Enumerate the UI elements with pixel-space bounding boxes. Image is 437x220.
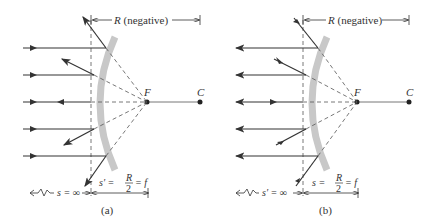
svg-text:2: 2: [126, 183, 131, 194]
svg-text:2: 2: [336, 183, 341, 194]
radius-label: R (negative): [113, 14, 168, 27]
convex-mirror: [100, 37, 115, 170]
center-point-dot: [407, 100, 412, 105]
panel-b: F C R (negative) s′ = ∞: [236, 14, 414, 217]
image-distance-label: s′ =: [99, 177, 114, 188]
center-point-dot: [198, 100, 203, 105]
svg-text:= f: = f: [345, 177, 358, 188]
svg-text:R: R: [125, 172, 132, 183]
focal-label: F: [353, 86, 361, 98]
caption-a: (a): [101, 204, 114, 217]
panel-a: F C R (negative) s = ∞: [23, 14, 205, 217]
caption-b: (b): [319, 204, 332, 217]
center-label: C: [197, 86, 205, 98]
focal-label: F: [143, 86, 151, 98]
convex-mirror: [312, 37, 327, 170]
radius-label: R (negative): [327, 14, 382, 27]
image-distance-label: s′ = ∞: [262, 187, 287, 198]
object-distance-label: s = ∞: [57, 187, 80, 198]
object-distance-label: s =: [312, 177, 325, 188]
svg-text:R: R: [335, 172, 342, 183]
svg-text:= f: = f: [135, 177, 148, 188]
center-label: C: [406, 86, 414, 98]
